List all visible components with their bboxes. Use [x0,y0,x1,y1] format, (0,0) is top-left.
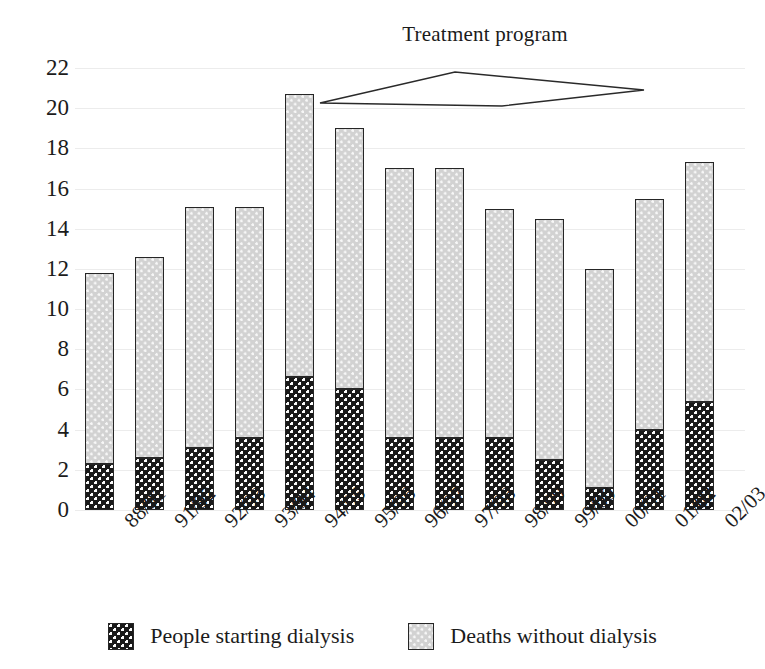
bar-segment-deaths-without-dialysis[interactable] [635,199,664,430]
bar-segment-deaths-without-dialysis[interactable] [235,207,264,438]
y-tick-label: 4 [23,418,69,441]
y-tick-label: 18 [23,136,69,159]
bar-group[interactable] [385,68,414,510]
legend-label: People starting dialysis [150,624,354,648]
y-tick-label: 16 [23,177,69,200]
x-tick-label: 93/94 [270,516,286,532]
bar-group[interactable] [485,68,514,510]
y-tick-label: 20 [23,96,69,119]
y-tick-label: 12 [23,257,69,280]
y-tick-label: 14 [23,217,69,240]
bar-segment-deaths-without-dialysis[interactable] [535,219,564,460]
bar-segment-deaths-without-dialysis[interactable] [285,94,314,377]
y-axis: 2220181614121086420 [14,68,69,510]
bar-segment-deaths-without-dialysis[interactable] [135,257,164,458]
x-tick-label: 98/99 [520,516,536,532]
x-tick-label: 88/91 [120,516,136,532]
x-tick-label: 02/03 [720,516,736,532]
legend-swatch-dark-icon [108,623,134,650]
bar-segment-deaths-without-dialysis[interactable] [485,209,514,438]
bar-group[interactable] [685,68,714,510]
x-tick-label: 94/95 [320,516,336,532]
bar-group[interactable] [285,68,314,510]
x-tick-label: 91/92 [170,516,186,532]
bar-segment-deaths-without-dialysis[interactable] [185,207,214,448]
bar-group[interactable] [585,68,614,510]
legend-label: Deaths without dialysis [450,624,657,648]
legend-swatch-light-icon [408,623,434,650]
y-tick-label: 8 [23,337,69,360]
bar-segment-deaths-without-dialysis[interactable] [585,269,614,488]
y-tick-label: 6 [23,377,69,400]
x-tick-label: 97/98 [470,516,486,532]
legend: People starting dialysisDeaths without d… [0,612,765,660]
bar-segment-deaths-without-dialysis[interactable] [335,128,364,389]
bar-group[interactable] [635,68,664,510]
bar-group[interactable] [185,68,214,510]
legend-item[interactable]: People starting dialysis [108,623,354,650]
x-tick-label: 92/93 [220,516,236,532]
stacked-bar-chart: Treatment program 2220181614121086420 88… [0,0,765,669]
bar-group[interactable] [335,68,364,510]
y-tick-label: 10 [23,297,69,320]
bar-group[interactable] [235,68,264,510]
legend-item[interactable]: Deaths without dialysis [408,623,657,650]
bar-segment-deaths-without-dialysis[interactable] [385,168,414,437]
bar-segment-deaths-without-dialysis[interactable] [85,273,114,464]
x-tick-label: 96/97 [420,516,436,532]
treatment-program-annotation-label: Treatment program [330,22,640,47]
bar-group[interactable] [85,68,114,510]
x-tick-label: 99/00 [570,516,586,532]
x-tick-label: 00/01 [620,516,636,532]
bar-segment-deaths-without-dialysis[interactable] [435,168,464,437]
y-tick-label: 2 [23,458,69,481]
bar-segment-deaths-without-dialysis[interactable] [685,162,714,401]
bar-group[interactable] [135,68,164,510]
x-axis: 88/9191/9292/9393/9494/9595/9696/9797/98… [75,510,745,600]
y-tick-label: 22 [23,56,69,79]
x-tick-label: 01/02 [670,516,686,532]
bar-group[interactable] [535,68,564,510]
bar-group[interactable] [435,68,464,510]
x-tick-label: 95/96 [370,516,386,532]
y-tick-label: 0 [23,498,69,521]
bar-segment-people-starting-dialysis[interactable] [85,464,114,510]
plot-area [75,68,745,510]
